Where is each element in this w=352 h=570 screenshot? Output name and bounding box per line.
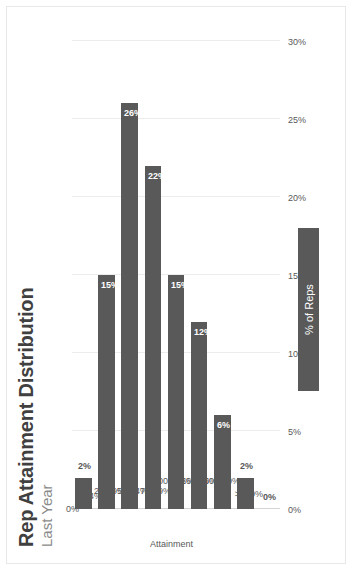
bar-row: 6% [214, 41, 231, 509]
legend[interactable]: % of Reps [298, 228, 319, 391]
bar-row: 2% [237, 41, 254, 509]
legend-label: % of Reps [303, 284, 315, 335]
bar-row: 26% [121, 41, 138, 509]
value-axis-tick: 25% [288, 115, 306, 125]
bar-value-label: 0% [263, 493, 276, 502]
bar-row: 12% [191, 41, 208, 509]
chart-frame: Rep Attainment Distribution Last Year 0%… [6, 6, 346, 564]
bar-value-label: 2% [240, 462, 253, 471]
bar-value-label: 6% [217, 421, 230, 430]
plot-area: 0%5%10%15%20%25%30%2%0%15%1-24%26%25-49%… [72, 41, 280, 509]
chart-page: Rep Attainment Distribution Last Year 0%… [0, 0, 352, 570]
bar-value-label: 15% [171, 281, 189, 290]
bar-value-label: 15% [101, 281, 119, 290]
chart-title: Rep Attainment Distribution [16, 127, 37, 547]
bar[interactable] [121, 103, 138, 509]
bar[interactable] [168, 275, 185, 509]
bar-row: 2% [75, 41, 92, 509]
bar-value-label: 2% [78, 462, 91, 471]
category-axis-tick: >200% [235, 489, 263, 499]
bar-row: 0% [260, 41, 277, 509]
bar-value-label: 26% [124, 109, 142, 118]
value-axis-tick: 20% [288, 193, 306, 203]
bar-row: 15% [98, 41, 115, 509]
category-axis-tick: 0% [66, 504, 79, 514]
value-axis-tick: 30% [288, 37, 306, 47]
category-axis-tick: 75-99% [140, 486, 171, 496]
bar[interactable] [145, 166, 162, 509]
bar-value-label: 12% [194, 328, 212, 337]
rotated-chart-canvas: Rep Attainment Distribution Last Year 0%… [10, 9, 342, 561]
value-axis-tick: 0% [288, 505, 301, 515]
chart-subtitle: Last Year [39, 127, 55, 547]
bar-row: 15% [168, 41, 185, 509]
category-axis-title: Attainment [150, 539, 193, 549]
category-axis-tick: 150-200% [199, 476, 240, 486]
bar[interactable] [98, 275, 115, 509]
chart-header: Rep Attainment Distribution Last Year [16, 127, 55, 547]
bar-row: 22% [145, 41, 162, 509]
value-axis-tick: 5% [288, 427, 301, 437]
bar-value-label: 22% [148, 172, 166, 181]
